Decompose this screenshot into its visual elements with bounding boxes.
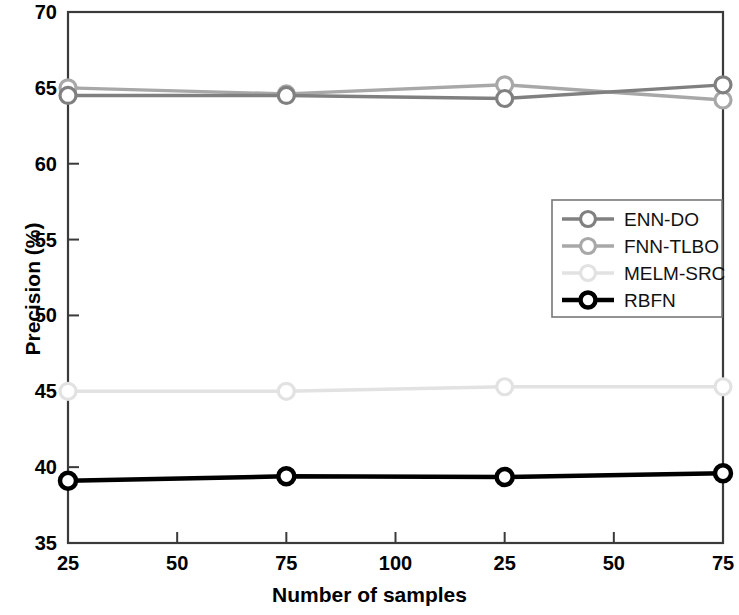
x-axis-title: Number of samples — [0, 583, 739, 607]
data-point-marker — [60, 473, 76, 489]
x-tick-label: 25 — [494, 552, 516, 575]
y-tick-label: 65 — [0, 76, 57, 99]
legend-label-enn-do: ENN-DO — [624, 209, 699, 230]
data-point-marker — [278, 87, 294, 103]
legend-marker-fnn-tlbo — [581, 239, 596, 254]
y-tick-label: 35 — [0, 532, 57, 555]
x-tick-label: 75 — [712, 552, 734, 575]
data-point-marker — [278, 383, 294, 399]
data-point-marker — [715, 379, 731, 395]
y-tick-label: 60 — [0, 152, 57, 175]
chart-legend: ENN-DOFNN-TLBOMELM-SRCRBFN — [552, 200, 725, 317]
data-point-marker — [497, 379, 513, 395]
chart-figure: ENN-DOFNN-TLBOMELM-SRCRBFN 3540455055606… — [0, 0, 739, 615]
legend-marker-enn-do — [581, 212, 596, 227]
data-point-marker — [497, 90, 513, 106]
x-tick-label: 50 — [166, 552, 188, 575]
x-tick-label: 50 — [603, 552, 625, 575]
data-point-marker — [715, 465, 731, 481]
data-point-marker — [60, 87, 76, 103]
data-point-marker — [60, 383, 76, 399]
precision-line-chart: ENN-DOFNN-TLBOMELM-SRCRBFN — [0, 0, 739, 615]
x-tick-label: 100 — [379, 552, 412, 575]
y-tick-label: 45 — [0, 380, 57, 403]
data-point-marker — [497, 469, 513, 485]
legend-label-rbfn: RBFN — [624, 290, 676, 311]
x-tick-label: 25 — [57, 552, 79, 575]
y-tick-label: 70 — [0, 1, 57, 24]
legend-label-melm-src: MELM-SRC — [624, 263, 725, 284]
y-axis-title: Precision (%) — [21, 204, 45, 374]
y-tick-label: 40 — [0, 456, 57, 479]
legend-marker-melm-src — [581, 266, 596, 281]
data-point-marker — [715, 77, 731, 93]
legend-marker-rbfn — [581, 293, 596, 308]
legend-label-fnn-tlbo: FNN-TLBO — [624, 236, 719, 257]
data-point-marker — [278, 468, 294, 484]
x-tick-label: 75 — [275, 552, 297, 575]
